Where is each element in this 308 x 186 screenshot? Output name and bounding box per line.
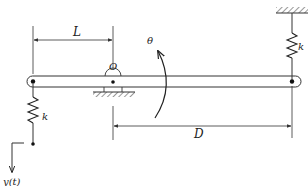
ceiling-hatch-right xyxy=(276,7,308,13)
ground-hatch-pivot xyxy=(93,92,135,97)
input-displacement-arrow: y(t) xyxy=(2,143,24,186)
label-O: O xyxy=(109,61,117,72)
input-point xyxy=(31,142,35,146)
spring-right xyxy=(287,33,297,58)
left-spring-assembly: k xyxy=(28,84,48,146)
left-end-pin xyxy=(31,79,35,83)
label-L: L xyxy=(72,25,81,39)
label-k-right: k xyxy=(298,41,304,52)
label-y-of-t: y(t) xyxy=(2,176,21,186)
label-D: D xyxy=(193,127,204,141)
pivot-pin xyxy=(111,80,115,84)
right-spring-assembly: k xyxy=(276,7,308,80)
dimension-D: D xyxy=(113,86,292,141)
spring-left xyxy=(28,97,38,123)
label-theta: θ xyxy=(147,35,153,46)
beam-spring-diagram: L O θ k k y(t) xyxy=(0,0,308,186)
dimension-L: L xyxy=(33,25,113,74)
label-k-left: k xyxy=(42,111,48,122)
rigid-beam xyxy=(27,76,301,87)
